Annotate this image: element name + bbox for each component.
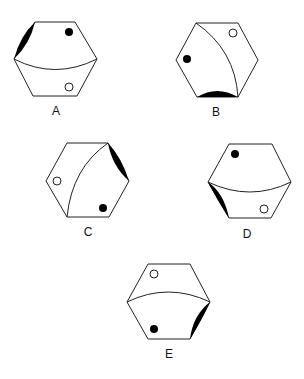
black-dot-b — [183, 55, 191, 63]
white-dot-c — [53, 177, 61, 185]
hexagon-options-diagram: A B C D E — [0, 0, 304, 379]
option-label-e: E — [165, 347, 173, 361]
black-dot-c — [99, 204, 107, 212]
option-label-d: D — [243, 227, 252, 241]
white-dot-d — [260, 205, 268, 213]
option-label-a: A — [52, 104, 60, 118]
option-e: E — [127, 264, 210, 361]
option-a: A — [14, 22, 97, 118]
option-c: C — [46, 143, 129, 239]
black-dot-e — [150, 325, 158, 333]
option-b: B — [176, 23, 258, 119]
white-dot-a — [65, 83, 73, 91]
hexagon-e — [127, 264, 210, 339]
black-dot-a — [65, 28, 73, 36]
option-label-c: C — [84, 225, 93, 239]
option-label-b: B — [212, 105, 220, 119]
hexagon-d — [208, 144, 291, 218]
white-dot-e — [150, 270, 158, 278]
white-dot-b — [229, 29, 237, 37]
black-dot-d — [231, 150, 239, 158]
option-d: D — [208, 144, 291, 241]
